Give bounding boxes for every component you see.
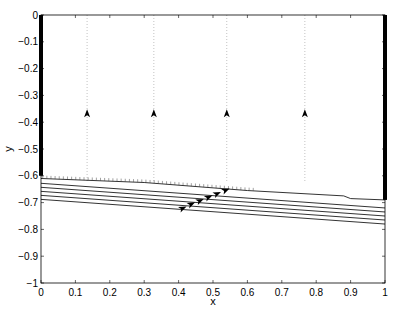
y-tick-label: −1 [27,278,39,289]
streamline-2-line [41,187,385,212]
arrow-up-icon [224,109,230,117]
arrow-diagonal-icon [212,192,221,198]
y-tick-label: −0.9 [18,251,38,262]
y-tick-label: −0.5 [18,144,38,155]
series-lines [41,176,385,224]
streamline-4-line [41,195,385,220]
arrow-up-icon [302,109,308,117]
walls [41,15,385,200]
x-tick-label: 0.1 [68,287,82,298]
y-tick-label: −0.2 [18,63,38,74]
arrow-up-icon [84,109,90,117]
arrow-diagonal-icon [221,188,230,194]
dotted-guides [87,15,305,181]
y-tick-label: −0.3 [18,90,38,101]
x-tick-label: 0.2 [103,287,117,298]
x-tick-label: 0.8 [309,287,323,298]
y-tick-label: −0.8 [18,224,38,235]
plot-frame [41,15,385,283]
axis-ticks: 00.10.20.30.40.50.60.70.80.910−0.1−0.2−0… [18,10,388,299]
x-tick-label: 0.3 [137,287,151,298]
x-tick-label: 0.9 [344,287,358,298]
x-tick-label: 1 [382,287,388,298]
y-tick-label: 0 [32,10,38,21]
arrow-diagonal-icon [195,199,204,205]
arrow-diagonal-icon [187,202,196,208]
interface-line [41,178,385,199]
x-axis-label: x [210,295,216,307]
x-tick-label: 0.4 [172,287,186,298]
y-tick-label: −0.1 [18,36,38,47]
y-tick-label: −0.4 [18,117,38,128]
chart: 00.10.20.30.40.50.60.70.80.910−0.1−0.2−0… [0,0,396,315]
y-tick-label: −0.7 [18,197,38,208]
x-tick-label: 0.7 [275,287,289,298]
arrow-diagonal-icon [204,195,213,201]
streamline-5-line [41,199,385,224]
y-axis-label: y [2,146,14,152]
y-tick-label: −0.6 [18,170,38,181]
x-tick-label: 0 [38,287,44,298]
x-tick-label: 0.6 [240,287,254,298]
arrow-up-icon [151,109,157,117]
